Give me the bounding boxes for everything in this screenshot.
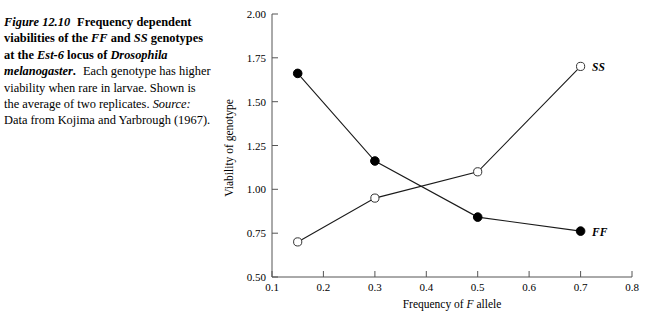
series-line-ss: [298, 66, 581, 242]
x-tick-label: 0.2: [317, 281, 331, 293]
y-tick-label: 1.50: [247, 96, 267, 108]
y-tick-label: 2.00: [247, 8, 267, 20]
y-axis-ticks: [272, 14, 278, 277]
y-axis-tick-labels: 0.50 0.75 1.00 1.25 1.50 1.75 2.00: [247, 8, 267, 283]
x-tick-label: 0.5: [471, 281, 485, 293]
x-tick-label: 0.3: [368, 281, 382, 293]
series-label-ff: FF: [591, 226, 608, 238]
x-axis-title: Frequency of F allele: [403, 298, 502, 311]
y-tick-label: 1.00: [247, 183, 267, 195]
x-axis-title-suffix: allele: [474, 298, 502, 310]
y-tick-label: 1.25: [247, 140, 267, 152]
line-chart: 0.50 0.75 1.00 1.25 1.50 1.75 2.00: [0, 0, 655, 312]
y-tick-label: 1.75: [247, 52, 267, 64]
series-markers-ff: [293, 69, 584, 235]
y-axis-title: Viability of genotype: [223, 99, 236, 197]
data-point-ss: [474, 168, 482, 176]
data-point-ss: [371, 194, 379, 202]
data-point-ss: [577, 62, 585, 70]
data-point-ff: [576, 227, 585, 236]
series-label-ss: SS: [592, 61, 605, 73]
x-axis-tick-labels: 0.1 0.2 0.3 0.4 0.5 0.6 0.7 0.8: [265, 281, 639, 293]
x-tick-label: 0.4: [419, 281, 433, 293]
data-point-ss: [294, 238, 302, 246]
series-line-ff: [298, 73, 581, 231]
y-tick-label: 0.50: [247, 271, 267, 283]
data-point-ff: [371, 157, 380, 166]
x-tick-label: 0.1: [265, 281, 279, 293]
x-tick-label: 0.6: [522, 281, 536, 293]
data-point-ff: [293, 69, 302, 78]
x-axis-ticks: [272, 271, 632, 277]
x-tick-label: 0.7: [574, 281, 588, 293]
data-point-ff: [473, 213, 482, 222]
y-tick-label: 0.75: [247, 227, 267, 239]
x-tick-label: 0.8: [625, 281, 639, 293]
series-markers-ss: [294, 62, 585, 246]
figure-container: Figure 12.10Frequency dependent viabilit…: [0, 0, 655, 312]
x-axis-title-prefix: Frequency of: [403, 298, 467, 311]
